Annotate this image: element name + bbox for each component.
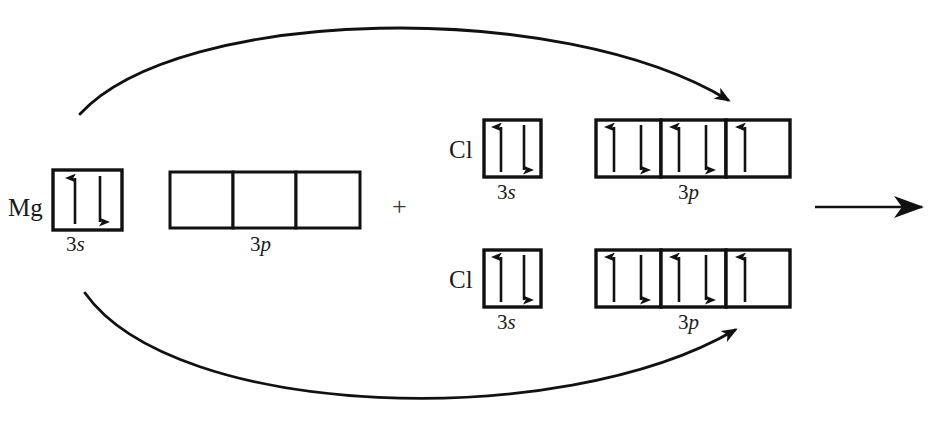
orbital-box-mg-3p (170, 172, 360, 228)
orbital-box-cl-bottom-3s (484, 250, 541, 307)
orbital-box-mg-3s (53, 170, 122, 230)
orbital-box-cl-top-3p (596, 120, 790, 177)
orbital-box-cl-top-3s (484, 120, 541, 177)
diagram-vector-layer (0, 0, 949, 426)
transfer-arrow-mg-to-cl-bottom (85, 293, 735, 398)
orbital-diagram-canvas: Mg 3s 3p + Cl 3s 3p Cl 3s 3p (0, 0, 949, 426)
transfer-arrow-mg-to-cl-top (80, 28, 728, 114)
orbital-box-cl-bottom-3p (596, 250, 790, 307)
